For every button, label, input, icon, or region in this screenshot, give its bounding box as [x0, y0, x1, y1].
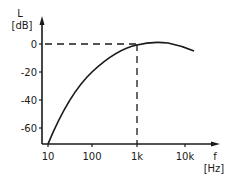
x-tick-label: 100 [82, 151, 101, 162]
y-axis-unit: [dB] [11, 20, 32, 31]
frequency-response-chart: 0 -20 -40 -60 10 100 1k 10k L [dB] f [Hz… [0, 0, 232, 177]
x-axis-label: f [213, 151, 217, 162]
y-tick-label: -40 [21, 95, 37, 106]
x-axis-unit: [Hz] [204, 163, 225, 174]
y-tick-label: 0 [31, 39, 37, 50]
x-tick-label: 10 [42, 151, 55, 162]
y-tick-label: -60 [21, 123, 37, 134]
x-tick-label: 10k [176, 151, 195, 162]
x-tick-label: 1k [131, 151, 143, 162]
y-axis-arrow [40, 16, 45, 25]
y-axis-label: L [17, 8, 23, 19]
y-tick-label: -20 [21, 67, 37, 78]
x-axis-arrow [211, 142, 220, 147]
response-curve [48, 42, 194, 144]
